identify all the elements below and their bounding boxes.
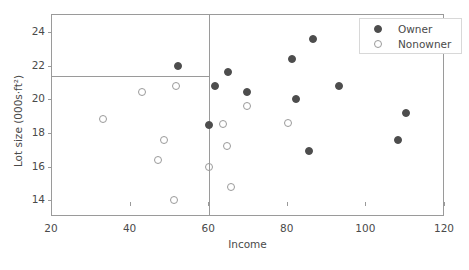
x-tick-mark [365, 202, 366, 206]
data-point-nonowner [160, 136, 168, 144]
x-tick-mark [130, 202, 131, 206]
x-tick-mark [51, 202, 52, 206]
data-point-owner [211, 82, 219, 90]
x-tick-label: 40 [123, 222, 136, 234]
x-tick-mark [208, 202, 209, 206]
x-tick-label: 120 [434, 222, 454, 234]
data-point-owner [394, 136, 402, 144]
legend-item-nonowner: Nonowner [360, 36, 461, 51]
y-tick-label: 18 [32, 126, 45, 138]
data-point-owner [305, 147, 313, 155]
x-tick-label: 80 [280, 222, 293, 234]
data-point-nonowner [227, 183, 235, 191]
nonowner-marker-icon [374, 40, 382, 48]
data-point-nonowner [284, 119, 292, 127]
y-tick-label: 16 [32, 160, 45, 172]
y-tick-label: 20 [32, 92, 45, 104]
data-point-nonowner [223, 142, 231, 150]
data-point-owner [243, 88, 251, 96]
x-tick-label: 100 [355, 222, 375, 234]
data-point-nonowner [243, 102, 251, 110]
data-point-owner [402, 109, 410, 117]
y-tick-mark [48, 167, 52, 168]
y-tick-mark [48, 200, 52, 201]
scatter-chart-figure: Lot size (000s·ft²) 141618202224 2040608… [0, 0, 469, 270]
y-tick-mark [48, 32, 52, 33]
y-tick-mark [48, 66, 52, 67]
data-point-owner [288, 55, 296, 63]
data-point-owner [335, 82, 343, 90]
x-tick-mark [444, 202, 445, 206]
x-tick-label: 60 [202, 222, 215, 234]
legend-item-owner: Owner [360, 21, 461, 36]
data-point-nonowner [170, 196, 178, 204]
y-tick-label: 14 [32, 193, 45, 205]
data-point-owner [309, 35, 317, 43]
data-point-nonowner [99, 115, 107, 123]
x-tick-label: 20 [44, 222, 57, 234]
owner-marker-icon [374, 25, 382, 33]
y-tick-label: 24 [32, 25, 45, 37]
y-tick-mark [48, 133, 52, 134]
legend: Owner Nonowner [359, 18, 462, 54]
data-point-owner [224, 68, 232, 76]
horizontal-split-line [52, 76, 209, 77]
data-point-nonowner [205, 163, 213, 171]
legend-label-owner: Owner [398, 23, 432, 35]
data-point-nonowner [172, 82, 180, 90]
data-point-nonowner [154, 156, 162, 164]
x-tick-mark [287, 202, 288, 206]
data-point-nonowner [219, 120, 227, 128]
vertical-split-line [209, 15, 210, 215]
legend-label-nonowner: Nonowner [398, 38, 451, 50]
data-point-owner [205, 121, 213, 129]
y-tick-label: 22 [32, 59, 45, 71]
y-tick-mark [48, 99, 52, 100]
x-axis-title: Income [51, 238, 444, 250]
data-point-nonowner [138, 88, 146, 96]
y-axis-tick-labels: 141618202224 [0, 14, 45, 216]
data-point-owner [292, 95, 300, 103]
data-point-owner [174, 62, 182, 70]
